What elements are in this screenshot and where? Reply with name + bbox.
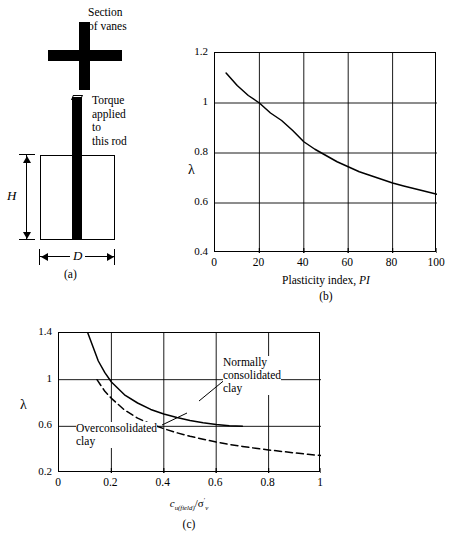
vane-blade-horizontal bbox=[48, 50, 122, 61]
x-tick-label: 0.6 bbox=[198, 476, 232, 488]
y-tick-label: 0.6 bbox=[22, 418, 52, 430]
y-tick-label: 1 bbox=[180, 95, 208, 107]
x-tick-label: 0.8 bbox=[251, 476, 285, 488]
label-section-of-vanes: Section of vanes bbox=[88, 6, 127, 33]
x-tick-label: 40 bbox=[288, 256, 318, 268]
dimension-cap-diameter-right bbox=[114, 249, 115, 265]
x-tick-label: 1 bbox=[303, 476, 337, 488]
y-axis-label-lambda-c: λ bbox=[20, 397, 27, 413]
caption-panel-b: (b) bbox=[218, 290, 434, 302]
x-tick-label: 0.4 bbox=[146, 476, 180, 488]
dimension-cap-height-bottom bbox=[19, 239, 35, 240]
panel-c-chart: λ 0.20.611.4 00.20.40.60.81 Normally con… bbox=[18, 322, 378, 540]
x-tick-label: 60 bbox=[332, 256, 362, 268]
y-tick-label: 0.8 bbox=[180, 145, 208, 157]
caption-panel-a: (a) bbox=[64, 268, 77, 280]
x-axis-label-b-prefix: Plasticity index, bbox=[282, 274, 359, 286]
x-tick-label: 0 bbox=[41, 476, 75, 488]
annotation-overconsolidated-clay: Overconsolidated clay bbox=[76, 422, 157, 448]
x-label-c-subscript: u(field) bbox=[175, 504, 195, 511]
label-torque-applied: Torque applied to this rod bbox=[92, 94, 127, 148]
caption-panel-c: (c) bbox=[60, 518, 318, 530]
x-label-c-sigma-subscript: v bbox=[205, 504, 208, 511]
torque-rod bbox=[72, 97, 82, 155]
y-tick-label: 0.6 bbox=[180, 195, 208, 207]
vane-blade-center bbox=[72, 155, 82, 240]
y-tick-label: 1.2 bbox=[180, 45, 208, 57]
panel-a-vane-diagram: Section of vanes Torque applied to this … bbox=[0, 0, 175, 300]
arrowhead-up-icon bbox=[23, 156, 31, 163]
chart-svg-b bbox=[215, 53, 437, 253]
arrowhead-down-icon bbox=[23, 232, 31, 239]
x-axis-label-c: cu(field)/σ′v bbox=[60, 496, 318, 511]
x-axis-label-b-symbol: PI bbox=[359, 274, 370, 286]
x-tick-label: 0 bbox=[199, 256, 229, 268]
x-tick-label: 100 bbox=[421, 256, 451, 268]
arrowhead-right-icon bbox=[107, 253, 114, 261]
panel-b-chart: λ 0.40.60.811.2 020406080100 Plasticity … bbox=[178, 40, 468, 320]
x-tick-label: 20 bbox=[243, 256, 273, 268]
label-D: D bbox=[70, 248, 85, 264]
label-H: H bbox=[7, 188, 16, 204]
y-tick-label: 1.4 bbox=[22, 325, 52, 337]
y-tick-label: 1 bbox=[22, 372, 52, 384]
x-label-c-prime: ′ bbox=[204, 496, 206, 503]
x-tick-label: 80 bbox=[377, 256, 407, 268]
plot-area-c bbox=[58, 332, 320, 472]
arrowhead-left-icon bbox=[41, 253, 48, 261]
y-axis-label-lambda-b: λ bbox=[188, 162, 195, 178]
x-tick-label: 0.2 bbox=[93, 476, 127, 488]
chart-svg-c bbox=[59, 333, 321, 473]
annotation-normally-consolidated-clay: Normally consolidated clay bbox=[223, 356, 281, 395]
x-axis-label-b: Plasticity index, PI bbox=[218, 274, 434, 286]
dimension-line-height bbox=[26, 155, 27, 240]
plot-area-b bbox=[214, 52, 436, 252]
